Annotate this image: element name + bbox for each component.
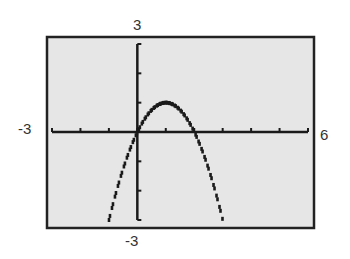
curve-pixel (115, 191, 118, 195)
curve-pixel (192, 129, 195, 133)
curve-pixel (133, 138, 136, 142)
curve-pixel (198, 142, 201, 146)
curve-pixel (216, 197, 219, 201)
curve-pixel (215, 194, 218, 198)
curve-pixel (114, 195, 117, 199)
calculator-graph-screen (0, 0, 350, 259)
curve-pixel (136, 131, 139, 135)
curve-pixel (118, 181, 121, 185)
curve-pixel (127, 153, 130, 157)
curve-pixel (121, 171, 124, 175)
curve-pixel (189, 123, 192, 127)
curve-pixel (139, 125, 142, 129)
curve-pixel (108, 218, 111, 222)
curve-pixel (201, 149, 204, 153)
curve-pixel (109, 214, 112, 218)
curve-pixel (111, 206, 114, 210)
curve-pixel (219, 209, 222, 213)
curve-pixel (218, 205, 221, 209)
curve-pixel (117, 184, 120, 188)
curve-pixel (207, 167, 210, 171)
curve-pixel (212, 183, 215, 187)
curve-pixel (195, 135, 198, 139)
curve-pixel (213, 186, 216, 190)
curve-pixel (124, 161, 127, 165)
curve-pixel (221, 217, 224, 221)
curve-pixel (130, 145, 133, 149)
curve-pixel (204, 158, 207, 162)
curve-pixel (210, 176, 213, 180)
curve-pixel (112, 202, 115, 206)
